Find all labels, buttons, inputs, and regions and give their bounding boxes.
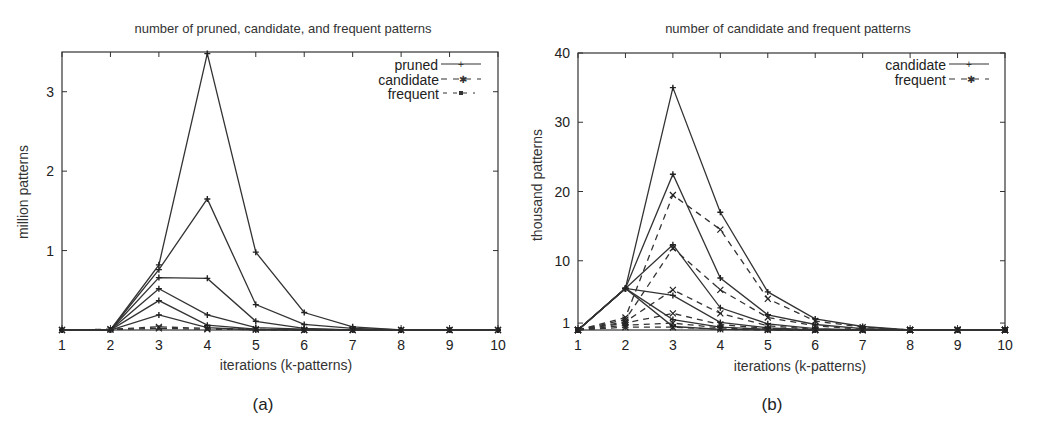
x-tick-label: 10: [490, 337, 506, 353]
x-tick-label: 4: [203, 337, 211, 353]
x-tick-label: 2: [107, 337, 115, 353]
x-tick-label: 8: [397, 337, 405, 353]
chart-panel-a: number of pruned, candidate, and frequen…: [0, 0, 520, 434]
y-tick-label: 1: [562, 315, 570, 331]
chart-b-xlabel: iterations (k-patterns): [734, 358, 866, 374]
legend-candidate-b-marker-icon: +: [966, 59, 972, 70]
series-line: [62, 199, 498, 330]
series-line: [578, 245, 1005, 330]
x-tick-label: 9: [954, 337, 962, 353]
x-tick-label: 8: [906, 337, 914, 353]
legend-pruned-label: pruned: [394, 57, 438, 73]
caption-b: (b): [762, 395, 783, 414]
x-tick-label: 5: [252, 337, 260, 353]
x-tick-label: 6: [300, 337, 308, 353]
series-line: [62, 315, 498, 330]
chart-b-ylabel: thousand patterns: [529, 129, 545, 241]
chart-a-legend: pruned + candidate ✱ frequent: [378, 57, 481, 102]
x-tick-label: 1: [58, 337, 66, 353]
y-tick-label: 3: [46, 84, 54, 100]
chart-a-xlabel: iterations (k-patterns): [220, 357, 352, 373]
x-tick-label: 2: [622, 337, 630, 353]
x-tick-label: 1: [574, 337, 582, 353]
legend-frequent-b-marker-icon: ✱: [967, 74, 975, 85]
legend-pruned-marker-icon: +: [458, 59, 464, 70]
x-tick-label: 6: [811, 337, 819, 353]
legend-frequent-marker-icon: [459, 91, 463, 95]
chart-a-ylabel: million patterns: [15, 145, 31, 239]
series-line: [578, 174, 1005, 330]
legend-candidate-marker-icon: ✱: [459, 74, 467, 85]
y-tick-label: 40: [554, 45, 570, 61]
x-tick-label: 10: [997, 337, 1013, 353]
series-line: [62, 278, 498, 330]
series-line: [578, 248, 1005, 330]
chart-a-svg: number of pruned, candidate, and frequen…: [0, 0, 520, 434]
chart-b-title: number of candidate and frequent pattern…: [665, 21, 911, 36]
y-tick-label: 2: [46, 163, 54, 179]
x-tick-label: 3: [155, 337, 163, 353]
series-line: [578, 290, 1005, 330]
x-tick-label: 7: [859, 337, 867, 353]
chart-b-legend: candidate + frequent ✱: [885, 57, 989, 88]
y-tick-label: 20: [554, 184, 570, 200]
chart-panel-b: number of candidate and frequent pattern…: [520, 0, 1038, 434]
x-tick-label: 4: [716, 337, 724, 353]
y-tick-label: 1: [46, 243, 54, 259]
chart-b-ticks: 12345678910110203040: [554, 45, 1013, 353]
caption-a: (a): [253, 395, 274, 414]
x-tick-label: 7: [349, 337, 357, 353]
x-tick-label: 5: [764, 337, 772, 353]
legend-frequent-label: frequent: [388, 86, 439, 102]
chart-b-svg: number of candidate and frequent pattern…: [520, 0, 1038, 434]
chart-a-title: number of pruned, candidate, and frequen…: [134, 21, 432, 36]
chart-b-frame: [578, 53, 1005, 330]
x-tick-label: 9: [446, 337, 454, 353]
y-tick-label: 30: [554, 114, 570, 130]
legend-frequent-b-label: frequent: [895, 72, 946, 88]
y-tick-label: 10: [554, 253, 570, 269]
x-tick-label: 3: [669, 337, 677, 353]
chart-b-series: [575, 85, 1008, 333]
legend-candidate-b-label: candidate: [885, 57, 946, 73]
